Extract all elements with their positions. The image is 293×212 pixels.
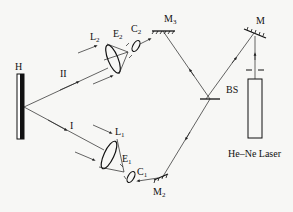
- mirror-two-label: M2: [153, 186, 166, 199]
- laser-label: He–Ne Laser: [228, 148, 282, 159]
- collimator-one-label: C1: [137, 166, 148, 179]
- beam-two-label: II: [60, 68, 67, 79]
- hologram-plate: [17, 74, 24, 139]
- he-ne-laser: [246, 36, 264, 138]
- lens-one-label: L1: [115, 126, 125, 139]
- beam-one-label: I: [70, 120, 73, 131]
- collimator-two-label: C2: [131, 23, 142, 36]
- pinhole-two-label: E2: [113, 28, 123, 41]
- holography-setup-diagram: H II I L2 E2 C2 L1: [0, 0, 293, 212]
- lens-two-label: L2: [90, 31, 100, 44]
- hologram-label: H: [15, 61, 22, 72]
- beam-one: [24, 107, 104, 150]
- pinhole-one-label: E1: [122, 153, 132, 166]
- beam-splitter-label: BS: [226, 84, 238, 95]
- mirror-three-label: M3: [164, 13, 177, 26]
- mirror-main-label: M: [256, 15, 265, 26]
